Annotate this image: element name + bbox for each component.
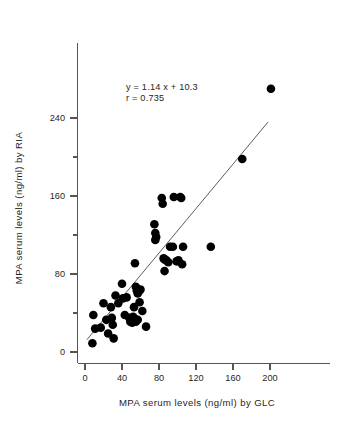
x-tick-label: 80 xyxy=(154,373,164,383)
regression-equation-label: y = 1.14 x + 10.3 xyxy=(126,82,198,92)
data-point xyxy=(178,260,187,269)
plot-canvas: 080160240 04080120160200 y = 1.14 x + 10… xyxy=(0,0,348,434)
data-point xyxy=(138,307,147,316)
data-point xyxy=(207,242,216,251)
data-point xyxy=(109,334,118,343)
data-point xyxy=(152,233,161,242)
data-point xyxy=(107,303,116,312)
data-point xyxy=(238,155,247,164)
data-point xyxy=(122,293,131,302)
y-tick-label: 240 xyxy=(50,113,65,123)
data-point xyxy=(133,316,142,325)
data-point xyxy=(118,279,127,288)
x-tick-label: 40 xyxy=(117,373,127,383)
data-point-group xyxy=(88,84,275,347)
data-point xyxy=(96,323,105,332)
data-point xyxy=(169,242,178,251)
y-tick-label: 160 xyxy=(50,191,65,201)
x-axis-tick-labels: 04080120160200 xyxy=(82,373,277,383)
data-point xyxy=(99,299,108,308)
data-point xyxy=(150,220,159,229)
x-tick-label: 160 xyxy=(225,373,240,383)
data-point xyxy=(142,322,151,331)
y-axis-tick-labels: 080160240 xyxy=(50,113,65,357)
data-point xyxy=(177,194,186,203)
data-point xyxy=(267,84,276,93)
data-point xyxy=(160,267,169,276)
y-tick-label: 0 xyxy=(60,347,65,357)
data-point xyxy=(158,200,167,209)
correlation-coefficient-label: r = 0.735 xyxy=(126,93,164,103)
x-axis-ticks xyxy=(85,364,270,371)
data-point xyxy=(88,339,97,348)
y-tick-label: 80 xyxy=(55,269,65,279)
x-tick-label: 120 xyxy=(188,373,203,383)
scatter-plot-figure: 080160240 04080120160200 y = 1.14 x + 10… xyxy=(0,0,348,434)
data-point xyxy=(131,259,140,268)
data-point xyxy=(89,311,98,320)
data-point xyxy=(179,242,188,251)
data-point xyxy=(111,291,120,300)
data-point xyxy=(136,285,145,294)
data-point xyxy=(108,320,117,329)
y-axis-title: MPA serum levels (ng/ml) by RIA xyxy=(13,132,24,285)
data-point xyxy=(135,298,144,307)
y-axis-ticks xyxy=(70,118,78,352)
data-point xyxy=(164,258,173,267)
x-tick-label: 200 xyxy=(262,373,277,383)
x-axis-title: MPA serum levels (ng/ml) by GLC xyxy=(119,397,275,408)
x-tick-label: 0 xyxy=(82,373,87,383)
